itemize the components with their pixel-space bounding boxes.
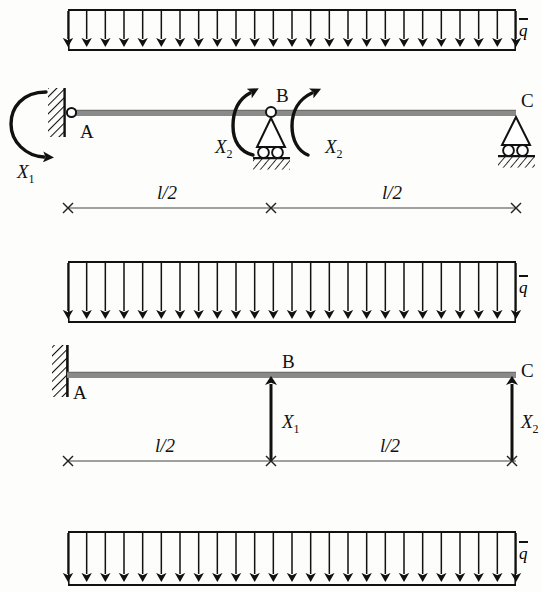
load-symbol-q-2: q — [519, 275, 528, 298]
support-b-roller-hinge — [253, 107, 290, 170]
x-subscript: 2 — [337, 147, 343, 161]
diagram-2-distributed-load — [68, 262, 516, 322]
label-point-c-2: C — [521, 361, 534, 380]
moment-arc-x2-right — [292, 93, 312, 155]
moment-arc-x1 — [11, 92, 46, 157]
overbar-glyph — [519, 18, 528, 20]
x-letter: X — [17, 161, 29, 182]
x-subscript: 1 — [29, 172, 35, 186]
support-triangle — [257, 118, 285, 147]
support-a-wall-hinge — [48, 88, 76, 137]
dimension-line-row-1 — [63, 203, 521, 213]
diagram-3-distributed-load — [68, 532, 516, 585]
diagram-1-beam-system — [11, 88, 535, 213]
overbar-glyph — [519, 541, 528, 543]
load-arrow-group — [68, 11, 516, 39]
x-subscript: 2 — [227, 147, 233, 161]
load-symbol-q-3: q — [519, 541, 528, 564]
label-point-a-2: A — [73, 383, 87, 402]
x-subscript: 1 — [294, 422, 300, 436]
q-letter: q — [519, 278, 528, 297]
support-c-roller — [498, 117, 535, 168]
label-point-a-1: A — [80, 122, 94, 141]
x-subscript: 2 — [533, 422, 539, 436]
diagram-1-distributed-load — [68, 10, 516, 50]
moment-arrow-x1 — [11, 92, 46, 157]
ground-hatching — [253, 159, 290, 170]
overbar-glyph — [519, 275, 528, 277]
wall-hatching — [52, 345, 68, 397]
pin-hinge-circle — [266, 107, 276, 117]
dimension-line-row-2 — [63, 456, 517, 466]
label-dim-left-1: l/2 — [157, 183, 177, 202]
support-a-fixed-wall — [52, 345, 68, 397]
pin-hinge-circle — [67, 108, 76, 117]
q-letter: q — [519, 21, 528, 40]
roller-right — [517, 145, 528, 156]
label-force-x2: X2 — [521, 412, 539, 435]
label-point-b-2: B — [282, 352, 295, 371]
roller-left — [258, 147, 269, 158]
roller-left — [503, 145, 514, 156]
roller-right — [272, 147, 283, 158]
ground-hatching — [498, 157, 535, 168]
load-symbol-q-1: q — [519, 18, 528, 41]
label-moment-x1: X1 — [17, 162, 35, 185]
load-arrow-group — [68, 533, 516, 574]
wall-hatching — [48, 88, 65, 137]
x-letter: X — [325, 136, 337, 157]
moment-arrow-x2-left — [233, 93, 253, 155]
label-dim-left-2: l/2 — [155, 436, 175, 455]
label-dim-right-2: l/2 — [380, 436, 400, 455]
label-dim-right-1: l/2 — [382, 183, 402, 202]
label-moment-x2-left: X2 — [215, 137, 233, 160]
label-point-c-1: C — [521, 91, 534, 110]
support-triangle — [502, 117, 530, 145]
x-letter: X — [521, 411, 533, 432]
x-letter: X — [215, 136, 227, 157]
q-letter: q — [519, 544, 528, 563]
moment-arrow-x2-right — [292, 93, 312, 155]
load-arrow-group — [68, 263, 516, 311]
moment-arc-x2-left — [233, 93, 253, 155]
label-moment-x2-right: X2 — [325, 137, 343, 160]
label-force-x1: X1 — [282, 412, 300, 435]
x-letter: X — [282, 411, 294, 432]
structural-beam-figure — [0, 0, 542, 592]
label-point-b-1: B — [276, 86, 289, 105]
